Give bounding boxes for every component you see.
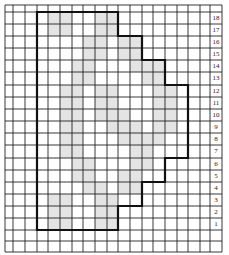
shaded-cell bbox=[72, 109, 83, 121]
shaded-cell bbox=[165, 85, 177, 97]
shaded-cell bbox=[153, 133, 165, 145]
shaded-cell bbox=[83, 182, 95, 194]
shaded-cell bbox=[107, 97, 118, 109]
shaded-cell bbox=[130, 145, 142, 158]
shaded-cell bbox=[48, 194, 60, 206]
row-number-label: 14 bbox=[210, 60, 222, 72]
shaded-cell bbox=[118, 170, 130, 182]
shaded-cell bbox=[60, 133, 72, 145]
shaded-cell bbox=[142, 133, 153, 145]
shaded-cell bbox=[95, 24, 107, 36]
shaded-cell bbox=[95, 194, 107, 206]
chart-grid bbox=[0, 0, 229, 255]
shaded-cell bbox=[153, 72, 165, 85]
shaded-cell bbox=[107, 85, 118, 97]
shaded-cell bbox=[142, 60, 153, 72]
shaded-cell bbox=[130, 182, 142, 194]
shaded-cell bbox=[107, 206, 118, 218]
shaded-cell bbox=[118, 121, 130, 133]
shaded-cell bbox=[60, 12, 72, 24]
shaded-cell bbox=[60, 121, 72, 133]
shaded-cell bbox=[153, 109, 165, 121]
shaded-cell bbox=[72, 85, 83, 97]
shaded-cell bbox=[83, 158, 95, 170]
shaded-cell bbox=[118, 109, 130, 121]
row-number-label: 13 bbox=[210, 72, 222, 85]
row-number-label: 8 bbox=[210, 133, 222, 145]
shaded-cell bbox=[72, 170, 83, 182]
row-number-label: 7 bbox=[210, 145, 222, 158]
shaded-cell bbox=[95, 48, 107, 60]
shaded-cell bbox=[60, 97, 72, 109]
shaded-cell bbox=[72, 145, 83, 158]
row-number-label: 3 bbox=[210, 194, 222, 206]
shaded-cell bbox=[72, 72, 83, 85]
shaded-cell bbox=[60, 85, 72, 97]
row-number-label: 10 bbox=[210, 109, 222, 121]
shaded-cell bbox=[95, 182, 107, 194]
shaded-cell bbox=[118, 133, 130, 145]
shaded-cell bbox=[48, 12, 60, 24]
shaded-cell bbox=[60, 206, 72, 218]
shaded-cell bbox=[153, 121, 165, 133]
shaded-cell bbox=[83, 72, 95, 85]
row-number-label: 17 bbox=[210, 24, 222, 36]
row-number-label: 18 bbox=[210, 12, 222, 24]
shaded-cell bbox=[130, 48, 142, 60]
shaded-cell bbox=[95, 36, 107, 48]
shaded-cell bbox=[72, 158, 83, 170]
shaded-cell bbox=[130, 170, 142, 182]
shaded-cell bbox=[83, 48, 95, 60]
shaded-cell bbox=[48, 218, 60, 230]
row-number-label: 11 bbox=[210, 97, 222, 109]
shaded-cell bbox=[130, 36, 142, 48]
shaded-cell bbox=[118, 182, 130, 194]
shaded-cell bbox=[72, 60, 83, 72]
shaded-cell bbox=[153, 85, 165, 97]
shaded-cell bbox=[118, 48, 130, 60]
shaded-cell bbox=[83, 170, 95, 182]
shaded-cell bbox=[60, 109, 72, 121]
row-number-label: 5 bbox=[210, 170, 222, 182]
shaded-cell bbox=[60, 218, 72, 230]
shaded-cell bbox=[165, 97, 177, 109]
row-number-label: 9 bbox=[210, 121, 222, 133]
shaded-cell bbox=[142, 145, 153, 158]
row-number-label: 4 bbox=[210, 182, 222, 194]
shaded-cell bbox=[72, 133, 83, 145]
shaded-cell bbox=[95, 85, 107, 97]
shaded-cell bbox=[107, 12, 118, 24]
shaded-cell bbox=[48, 206, 60, 218]
row-number-label: 16 bbox=[210, 36, 222, 48]
shaded-cell bbox=[130, 158, 142, 170]
shaded-cell bbox=[95, 218, 107, 230]
shaded-cell bbox=[165, 109, 177, 121]
shaded-cell bbox=[118, 36, 130, 48]
row-number-label: 15 bbox=[210, 48, 222, 60]
shaded-cell bbox=[95, 206, 107, 218]
shaded-cell bbox=[60, 145, 72, 158]
row-number-label: 1 bbox=[210, 218, 222, 230]
shaded-cell bbox=[83, 36, 95, 48]
shaded-cell bbox=[107, 194, 118, 206]
shaded-cell bbox=[107, 121, 118, 133]
shaded-cell bbox=[142, 72, 153, 85]
shaded-cell bbox=[48, 24, 60, 36]
row-number-label: 6 bbox=[210, 158, 222, 170]
shaded-cell bbox=[95, 109, 107, 121]
shaded-cell bbox=[130, 121, 142, 133]
shaded-cell bbox=[153, 60, 165, 72]
shaded-cell bbox=[130, 60, 142, 72]
shaded-cell bbox=[95, 12, 107, 24]
shaded-cell bbox=[153, 97, 165, 109]
shaded-cell bbox=[130, 133, 142, 145]
shaded-cell bbox=[72, 121, 83, 133]
shaded-cell bbox=[60, 194, 72, 206]
shaded-cell bbox=[83, 60, 95, 72]
shaded-cell bbox=[95, 97, 107, 109]
row-number-label: 12 bbox=[210, 85, 222, 97]
shaded-cell bbox=[107, 109, 118, 121]
shaded-cell bbox=[142, 158, 153, 170]
shaded-cell bbox=[165, 121, 177, 133]
row-number-label: 2 bbox=[210, 206, 222, 218]
